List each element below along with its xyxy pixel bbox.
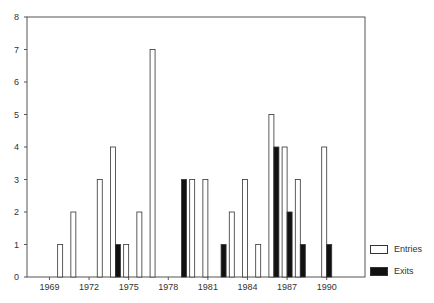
legend-label-exits: Exits	[394, 266, 414, 276]
entries-bar	[97, 180, 102, 278]
entries-bar	[269, 115, 274, 278]
legend: Entries Exits	[370, 242, 422, 286]
entries-bar	[124, 245, 129, 278]
entries-bar	[58, 245, 63, 278]
entries-bar	[295, 180, 300, 278]
entries-bar	[203, 180, 208, 278]
x-tick-label: 1975	[119, 282, 139, 292]
x-tick-label: 1978	[158, 282, 178, 292]
exits-bar	[115, 245, 120, 278]
y-tick-label: 3	[14, 175, 19, 185]
y-tick-label: 8	[14, 12, 19, 22]
x-tick-label: 1990	[317, 282, 337, 292]
entries-swatch-icon	[370, 245, 388, 254]
x-tick-label: 1981	[198, 282, 218, 292]
y-tick-label: 4	[14, 142, 19, 152]
entries-bar	[256, 245, 261, 278]
legend-item-entries: Entries	[370, 242, 422, 256]
bar-chart: 012345678 196919721975197819811984198719…	[0, 0, 434, 303]
entries-bar	[71, 212, 76, 277]
entries-bar	[322, 147, 327, 277]
x-tick-label: 1987	[277, 282, 297, 292]
x-axis: 19691972197519781981198419871990	[39, 277, 336, 292]
exits-bar	[221, 245, 226, 278]
entries-bar	[110, 147, 115, 277]
exits-swatch-icon	[370, 267, 388, 276]
exits-bar	[274, 147, 279, 277]
y-tick-label: 6	[14, 77, 19, 87]
legend-label-entries: Entries	[394, 244, 422, 254]
entries-bar	[190, 180, 195, 278]
exits-bar	[287, 212, 292, 277]
exits-bar	[300, 245, 305, 278]
bars	[58, 50, 332, 278]
x-tick-label: 1984	[237, 282, 257, 292]
exits-bar	[327, 245, 332, 278]
entries-bar	[229, 212, 234, 277]
x-tick-label: 1972	[79, 282, 99, 292]
y-axis: 012345678	[14, 12, 27, 282]
entries-bar	[137, 212, 142, 277]
y-tick-label: 0	[14, 272, 19, 282]
y-tick-label: 1	[14, 240, 19, 250]
legend-item-exits: Exits	[370, 264, 422, 278]
entries-bar	[282, 147, 287, 277]
entries-bar	[242, 180, 247, 278]
exits-bar	[181, 180, 186, 278]
y-tick-label: 2	[14, 207, 19, 217]
y-tick-label: 7	[14, 45, 19, 55]
entries-bar	[150, 50, 155, 278]
x-tick-label: 1969	[39, 282, 59, 292]
y-tick-label: 5	[14, 110, 19, 120]
plot-frame	[27, 17, 365, 277]
